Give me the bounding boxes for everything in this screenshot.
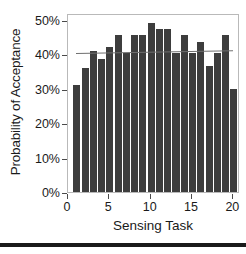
bar (130, 35, 138, 192)
bar (213, 53, 221, 192)
x-tick-label: 0 (52, 200, 82, 214)
x-tick-label: 5 (93, 200, 123, 214)
bar (72, 85, 80, 192)
bar (196, 42, 204, 192)
bar (171, 53, 179, 192)
bottom-rule (0, 243, 246, 247)
y-tick-label: 20% (14, 117, 60, 131)
chart-figure: Probability of Acceptance 0%10%20%30%40%… (0, 0, 246, 254)
plot-inner (68, 15, 238, 192)
bar (229, 89, 237, 192)
x-tick-mark (232, 194, 233, 199)
y-tick-label: 10% (14, 152, 60, 166)
x-tick-label: 15 (176, 200, 206, 214)
bar (221, 35, 229, 192)
bar (97, 59, 105, 192)
bar (188, 53, 196, 192)
x-tick-label: 10 (135, 200, 165, 214)
bar (114, 35, 122, 192)
bar (155, 29, 163, 193)
bar (122, 53, 130, 192)
x-tick-label: 20 (217, 200, 246, 214)
bar (105, 47, 113, 192)
bar (138, 35, 146, 192)
y-tick-label: 30% (14, 83, 60, 97)
bar (147, 23, 155, 192)
x-tick-mark (150, 194, 151, 199)
y-tick-label: 50% (14, 14, 60, 28)
y-tick-label: 0% (14, 186, 60, 200)
plot-area (67, 14, 239, 193)
bar (180, 35, 188, 192)
bar (89, 51, 97, 192)
y-tick-label: 40% (14, 48, 60, 62)
y-axis-tick-labels: 0%10%20%30%40%50% (14, 10, 60, 198)
x-tick-mark (191, 194, 192, 199)
bar (205, 66, 213, 192)
x-tick-mark (108, 194, 109, 199)
x-tick-mark (67, 194, 68, 199)
x-axis-title: Sensing Task (60, 218, 246, 233)
bar (81, 68, 89, 192)
bar (163, 29, 171, 193)
